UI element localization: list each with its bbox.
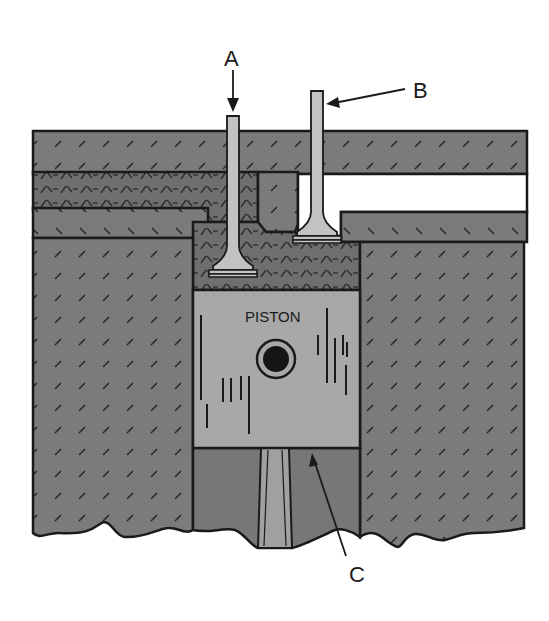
piston-label: PISTON [245, 308, 301, 325]
left-cylinder-wall [33, 238, 193, 537]
arrow-b [326, 89, 405, 108]
engine-cylinder-diagram: PISTON A B C [0, 0, 549, 621]
right-port-lip [341, 212, 527, 242]
wrist-pin [263, 346, 289, 372]
label-a: A [224, 46, 239, 71]
connecting-rod [258, 448, 292, 548]
arrow-a [227, 70, 239, 112]
cylinder-head-top [33, 131, 527, 174]
label-c: C [349, 562, 365, 587]
label-b: B [413, 78, 428, 103]
head-center-block [258, 172, 298, 232]
right-cylinder-wall [360, 242, 524, 547]
left-port-lip [33, 208, 208, 238]
